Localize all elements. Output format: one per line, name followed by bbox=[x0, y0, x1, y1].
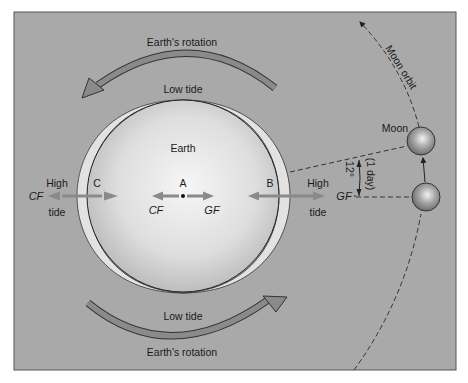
angle-label: 12° bbox=[344, 161, 356, 177]
moon-position-1 bbox=[412, 183, 440, 211]
gf-center-label: GF bbox=[204, 204, 221, 216]
high-tide-left-high: High bbox=[46, 177, 68, 189]
high-tide-right-high: High bbox=[307, 177, 329, 189]
point-c-label: C bbox=[93, 177, 101, 189]
point-b-label: B bbox=[266, 177, 273, 189]
rotation-label-top: Earth's rotation bbox=[147, 36, 217, 48]
moon-label: Moon bbox=[382, 122, 408, 134]
rotation-label-bottom: Earth's rotation bbox=[147, 346, 217, 358]
high-tide-right-tide: tide bbox=[310, 206, 327, 218]
cf-center-label: CF bbox=[149, 204, 165, 216]
moon-position-2 bbox=[407, 127, 435, 155]
point-a-label: A bbox=[179, 177, 186, 189]
point-a-dot bbox=[181, 194, 185, 198]
low-tide-label-top: Low tide bbox=[163, 83, 202, 95]
earth-label: Earth bbox=[170, 142, 195, 154]
gf-right-label: GF bbox=[336, 190, 353, 202]
high-tide-left-tide: tide bbox=[49, 206, 66, 218]
cf-left-label: CF bbox=[29, 190, 45, 202]
angle-note-label: (1 day) bbox=[365, 158, 377, 191]
tidal-diagram: Moon orbit Earth's rotation Earth's rota… bbox=[0, 0, 468, 383]
low-tide-label-bottom: Low tide bbox=[163, 310, 202, 322]
